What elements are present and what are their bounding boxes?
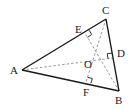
segment-ad bbox=[22, 58, 113, 70]
label-b: B bbox=[115, 94, 122, 106]
segment-cf bbox=[86, 19, 106, 82]
label-c: C bbox=[102, 4, 109, 16]
triangle-diagram: A B C D E F O bbox=[0, 0, 132, 109]
label-f: F bbox=[83, 86, 89, 98]
label-d: D bbox=[117, 47, 125, 59]
right-angle-mark-f bbox=[88, 77, 93, 83]
label-e: E bbox=[75, 23, 82, 35]
label-o: O bbox=[84, 58, 92, 70]
right-angle-mark-e bbox=[88, 30, 92, 37]
label-a: A bbox=[10, 64, 18, 76]
segment-ab bbox=[22, 70, 119, 91]
triangle-sides bbox=[22, 19, 119, 91]
segment-ca bbox=[22, 19, 106, 70]
